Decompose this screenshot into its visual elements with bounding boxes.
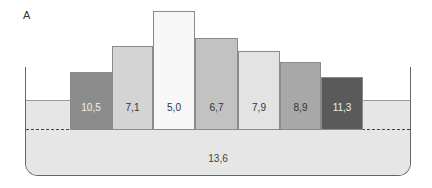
bar-6: 8,9 (280, 62, 321, 130)
bar-value-label: 10,5 (71, 102, 111, 113)
bar-value-label: 11,3 (322, 102, 362, 113)
bar-5: 7,9 (238, 51, 280, 130)
bar-1: 10,5 (70, 72, 112, 130)
bar-value-label: 8,9 (281, 102, 320, 113)
bar-value-label: 5,0 (154, 102, 194, 113)
bar-3: 5,0 (153, 11, 195, 130)
bar-4: 6,7 (195, 38, 238, 130)
bar-value-label: 7,9 (239, 102, 279, 113)
panel-label: A (23, 9, 30, 21)
bar-value-label: 7,1 (113, 102, 152, 113)
base-value-label: 13,6 (26, 153, 410, 164)
bar-value-label: 6,7 (196, 102, 237, 113)
bar-2: 7,1 (112, 46, 153, 130)
bar-7: 11,3 (321, 77, 363, 130)
